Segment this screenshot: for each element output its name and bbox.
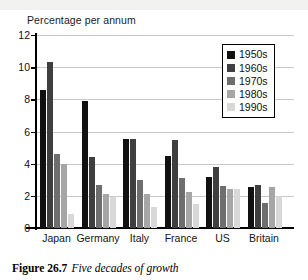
legend-item-1990s: 1990s xyxy=(227,101,268,114)
y-tick-label: 12 xyxy=(14,29,30,41)
caption-title: Five decades of growth xyxy=(71,262,178,274)
bar-france-1980s xyxy=(186,192,192,228)
legend-swatch-icon-1990s xyxy=(227,103,235,111)
bar-britain-1980s xyxy=(269,187,275,228)
bar-group-germany xyxy=(82,35,117,228)
bar-germany-1960s xyxy=(89,157,95,228)
y-tick-label: 10 xyxy=(14,61,30,73)
bar-us-1960s xyxy=(213,167,219,228)
legend-swatch-icon-1950s xyxy=(227,51,235,59)
bar-us-1980s xyxy=(227,189,233,228)
bar-italy-1980s xyxy=(144,194,150,228)
bar-us-1990s xyxy=(234,189,240,228)
chart-legend: 1950s1960s1970s1980s1990s xyxy=(222,44,275,118)
legend-label-1990s: 1990s xyxy=(239,102,268,113)
bar-italy-1970s xyxy=(137,180,143,228)
x-axis-label-japan: Japan xyxy=(42,232,71,244)
bar-britain-1990s xyxy=(276,196,282,228)
legend-label-1980s: 1980s xyxy=(239,89,268,100)
bar-germany-1990s xyxy=(110,197,116,228)
legend-item-1980s: 1980s xyxy=(227,88,268,101)
page-background-tint xyxy=(0,0,308,10)
legend-label-1960s: 1960s xyxy=(239,63,268,74)
legend-label-1970s: 1970s xyxy=(239,76,268,87)
bar-group-france xyxy=(165,35,200,228)
legend-swatch-icon-1970s xyxy=(227,77,235,85)
bar-france-1960s xyxy=(172,140,178,228)
legend-item-1950s: 1950s xyxy=(227,48,268,61)
bar-japan-1980s xyxy=(61,164,67,228)
bar-germany-1970s xyxy=(96,185,102,228)
legend-swatch-icon-1980s xyxy=(227,90,235,98)
x-axis-label-italy: Italy xyxy=(130,232,149,244)
bar-germany-1980s xyxy=(103,194,109,228)
bar-germany-1950s xyxy=(82,101,88,228)
bar-italy-1960s xyxy=(130,139,136,228)
y-tick-label: 4 xyxy=(14,158,30,170)
bar-italy-1950s xyxy=(123,139,129,228)
figure-container: Percentage per annum 024681012 JapanGerm… xyxy=(0,0,308,280)
x-axis-label-france: France xyxy=(165,232,198,244)
legend-label-1950s: 1950s xyxy=(239,49,268,60)
bar-japan-1970s xyxy=(54,154,60,228)
bar-britain-1950s xyxy=(248,187,254,228)
bar-france-1970s xyxy=(179,178,185,228)
y-tick-label: 2 xyxy=(14,190,30,202)
bar-us-1970s xyxy=(220,186,226,228)
bar-us-1950s xyxy=(206,177,212,228)
bar-group-japan xyxy=(40,35,75,228)
y-tick-label: 8 xyxy=(14,93,30,105)
bar-japan-1990s xyxy=(68,214,74,228)
bar-britain-1960s xyxy=(255,185,261,228)
legend-item-1960s: 1960s xyxy=(227,61,268,74)
x-axis-label-germany: Germany xyxy=(76,232,119,244)
bar-group-italy xyxy=(123,35,158,228)
chart-title: Percentage per annum xyxy=(27,14,136,26)
caption-number: Figure 26.7 xyxy=(12,262,67,274)
bar-france-1990s xyxy=(193,204,199,228)
legend-swatch-icon-1960s xyxy=(227,64,235,72)
y-tick-label: 6 xyxy=(14,126,30,138)
figure-caption: Figure 26.7Five decades of growth xyxy=(12,258,179,276)
x-axis-label-britain: Britain xyxy=(249,232,279,244)
x-axis-label-us: US xyxy=(215,232,230,244)
bar-france-1950s xyxy=(165,156,171,228)
bar-italy-1990s xyxy=(151,207,157,228)
bar-japan-1960s xyxy=(47,62,53,228)
legend-item-1970s: 1970s xyxy=(227,74,268,87)
bar-britain-1970s xyxy=(262,203,268,228)
y-axis-line xyxy=(35,33,37,230)
bar-japan-1950s xyxy=(40,90,46,228)
